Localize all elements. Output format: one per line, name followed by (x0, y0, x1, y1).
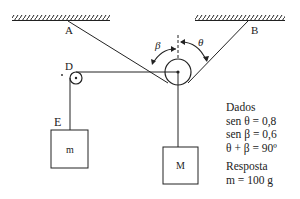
label-mass-m: m (66, 144, 74, 155)
label-mass-M: M (176, 160, 185, 171)
string-a (68, 21, 168, 83)
given-heading: Dados (226, 101, 277, 115)
label-beta: β (155, 40, 160, 51)
given-line: θ + β = 90º (226, 142, 277, 156)
given-line: sen β = 0,6 (226, 128, 277, 142)
ceiling-left (12, 15, 110, 21)
string-b (188, 21, 248, 83)
label-a: A (65, 25, 73, 36)
label-e: E (54, 116, 61, 128)
label-b: B (251, 25, 258, 36)
answer-value: m = 100 g (226, 174, 277, 188)
label-theta: θ (198, 37, 203, 48)
given-line: sen θ = 0,8 (226, 115, 277, 129)
answer-heading: Resposta (226, 160, 277, 174)
label-d: D (65, 61, 73, 72)
ceiling-right (195, 15, 285, 21)
data-panel: Dados sen θ = 0,8 sen β = 0,6 θ + β = 90… (226, 101, 277, 187)
